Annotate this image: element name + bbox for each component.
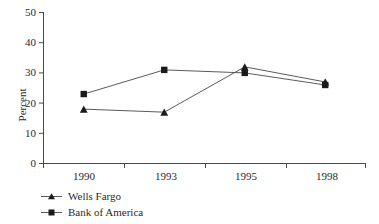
legend: Wells Fargo Bank of America — [41, 190, 143, 218]
legend-label-wells-fargo: Wells Fargo — [68, 190, 121, 202]
series-layer — [80, 63, 329, 116]
y-tick-label-50: 50 — [25, 6, 37, 18]
x-tick-label-1990: 1990 — [73, 170, 96, 182]
data-point-square — [322, 82, 328, 88]
x-tick-label-1998: 1998 — [316, 170, 339, 182]
x-tick-label-1993: 1993 — [155, 170, 178, 182]
x-tick-label-1995: 1995 — [235, 170, 258, 182]
data-point-square — [242, 70, 248, 76]
y-tick-label-40: 40 — [25, 36, 37, 48]
legend-label-bank-of-america: Bank of America — [68, 206, 143, 218]
data-point-triangle — [241, 63, 249, 70]
series-bank-of-america — [81, 67, 329, 98]
square-marker-icon — [49, 210, 55, 216]
y-tick-label-20: 20 — [25, 97, 37, 109]
line-chart: Percent 50 40 30 20 10 0 1990 — [0, 0, 379, 224]
series-line — [84, 70, 326, 94]
data-point-square — [81, 91, 87, 97]
legend-item-bank-of-america[interactable]: Bank of America — [41, 206, 143, 218]
series-line — [84, 67, 326, 112]
y-tick-label-30: 30 — [25, 66, 37, 78]
legend-item-wells-fargo[interactable]: Wells Fargo — [41, 190, 121, 202]
y-tick-label-10: 10 — [25, 127, 37, 139]
data-point-square — [161, 67, 167, 73]
x-axis-ticks — [44, 164, 366, 169]
y-axis-ticks — [39, 13, 43, 164]
y-tick-label-0: 0 — [31, 157, 37, 169]
